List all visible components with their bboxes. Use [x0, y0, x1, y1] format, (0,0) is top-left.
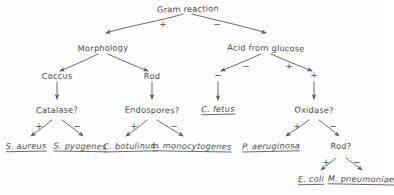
edge-label-rod2-right: − [353, 158, 361, 167]
branch-sign-acid-positive: + [310, 71, 318, 80]
leaf-l-monocytogenes[interactable]: L. monocytogenes [152, 141, 231, 152]
edge-label-rod2-left: + [322, 158, 330, 167]
edge-label-root-right: − [213, 20, 221, 29]
node-rod-test-2[interactable]: Rod? [330, 142, 351, 151]
edge-label-oxidase-left: + [293, 122, 301, 131]
edge-acid-to-cfetus [221, 54, 261, 71]
leaf-e-coli[interactable]: E. coli [298, 175, 324, 186]
edge-label-endospores-right: − [170, 122, 178, 131]
node-coccus[interactable]: Coccus [42, 72, 73, 81]
edge-label-acid-left: − [242, 62, 250, 71]
edge-label-acid-right: + [285, 62, 293, 71]
leaf-s-pyogenes[interactable]: S. pyogenes [53, 141, 106, 152]
node-rod[interactable]: Rod [144, 72, 160, 80]
node-morphology[interactable]: Morphology [78, 43, 129, 52]
edge-label-endospores-left: + [130, 122, 138, 131]
edge-root-to-morphology [106, 14, 183, 33]
leaf-c-fetus[interactable]: C. fetus [201, 105, 235, 116]
edge-morphology-to-rod [108, 54, 148, 71]
edge-label-oxidase-right: − [329, 122, 337, 131]
branch-sign-acid-negative: − [214, 71, 222, 80]
edge-label-catalase-right: − [73, 122, 81, 131]
edge-label-root-left: + [159, 20, 167, 29]
edge-morphology-to-coccus [60, 54, 98, 71]
node-oxidase-test[interactable]: Oxidase? [294, 106, 334, 115]
edge-root-to-acid [192, 14, 266, 33]
edge-label-catalase-left: + [35, 122, 43, 131]
node-catalase-test[interactable]: Catalase? [36, 105, 78, 114]
leaf-s-aureus[interactable]: S. aureus [6, 141, 47, 152]
node-gram-reaction[interactable]: Gram reaction [157, 4, 219, 13]
leaf-p-aeruginosa[interactable]: P. aeruginosa [242, 141, 300, 152]
leaf-c-botulinum[interactable]: C. botulinum [103, 141, 159, 152]
node-acid-from-glucose[interactable]: Acid from glucose [227, 43, 305, 52]
node-endospores-test[interactable]: Endospores? [125, 105, 180, 114]
leaf-m-pneumoniae[interactable]: M. pneumoniae [328, 174, 394, 185]
